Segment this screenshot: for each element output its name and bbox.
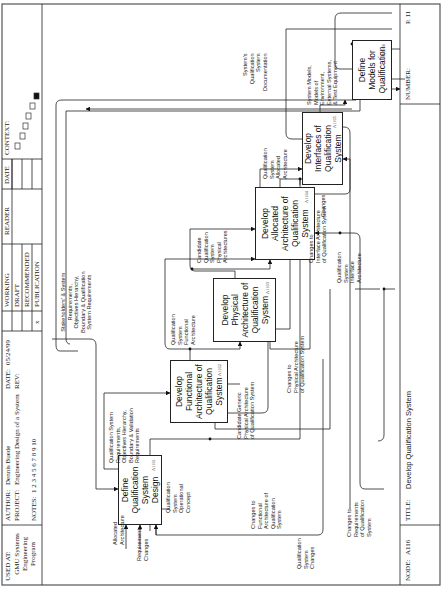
box-id: A1161 <box>149 459 159 471</box>
date-label: DATE: <box>4 369 13 389</box>
status-working[interactable]: WORKING <box>3 273 12 307</box>
node-value: A116 <box>404 540 413 555</box>
label-qual-system-changes: Qualification System Changes <box>296 538 316 569</box>
project-value: Engineering Design of a System <box>13 394 22 485</box>
label-candidate-generic-physical: Candidate Generic Physical Architecture … <box>236 382 256 439</box>
box-label: Define Qualification System Design <box>120 467 160 514</box>
label-stakeholders-requirements: Stakeholders' & System Requirements, Obj… <box>60 271 93 333</box>
label-qual-operational-concept: Qualification System Operational Concept <box>165 482 191 513</box>
footer-title: Develop Qualification System <box>404 391 413 489</box>
used-at-value: GMU Systems Engineering Program <box>13 527 37 581</box>
idef0-diagram-page: USED AT: GMU Systems Engineering Program… <box>0 0 442 589</box>
status-publication[interactable]: PUBLICATION <box>33 261 42 307</box>
label-system-qualification-documentation: System's Qualification System Documentat… <box>242 53 268 91</box>
status-draft[interactable]: DRAFT <box>13 284 22 307</box>
label-candidate-physical-architectures: Candidate Qualification System Physical … <box>196 230 229 263</box>
activity-box-develop-physical-architecture[interactable]: Develop Physical Architecture of Qualifi… <box>213 278 276 342</box>
label-changes-functional-architecture: Changes to Functional Architecture of Qu… <box>250 493 283 529</box>
label-changes-physical-architecture: Changes to Physical Architecture of Qual… <box>286 336 306 393</box>
page-number: P. 11 <box>404 11 413 24</box>
title-label: TITLE: <box>404 500 413 521</box>
activity-box-develop-allocated-architecture[interactable]: Develop Allocated Architecture of Qualif… <box>255 187 315 260</box>
label-requirement-changes: Requirement Changes <box>136 529 149 561</box>
notes-value: 1 2 3 4 5 6 7 8 9 10 <box>30 439 39 493</box>
node-label: NODE: <box>404 560 413 581</box>
label-changes: Changes <box>320 195 327 217</box>
label-qual-interface-architecture: Qualification System Interface Architect… <box>336 252 362 283</box>
activity-box-develop-interfaces[interactable]: Develop Interfaces of Qualification Syst… <box>302 112 343 185</box>
publication-check-mark[interactable]: x <box>33 321 42 325</box>
box-id: A1163 <box>263 282 273 294</box>
date2-label: DATE <box>3 166 12 184</box>
activity-box-develop-functional-architecture[interactable]: Develop Functional Architecture of Quali… <box>170 360 228 423</box>
box-label: Develop Interfaces of Qualification Syst… <box>303 125 343 172</box>
notes-label: NOTES: <box>30 497 39 522</box>
author-value: Dennis Buede <box>4 446 13 485</box>
box-id: A1166 <box>379 44 389 56</box>
label-changes-requirements: Changes to Requirements of Qualification… <box>346 500 372 537</box>
rev-label: REV: <box>13 374 22 389</box>
number-label: NUMBER: <box>404 68 413 100</box>
label-allocated-architecture: Allocated Architecture <box>112 515 125 545</box>
reader-label: READER <box>3 207 12 235</box>
box-id: A1162 <box>215 364 225 376</box>
status-recommended[interactable]: RECOMMENDED <box>23 252 32 307</box>
box-id: A1165 <box>330 116 340 128</box>
date-value: 05/24/99 <box>4 340 13 365</box>
label-qual-system-requirements: Qualification System Requirements, Objec… <box>108 408 141 463</box>
context-label: CONTEXT: <box>3 121 12 155</box>
used-at-label: USED AT: <box>4 551 13 581</box>
box-id: A1164 <box>302 191 312 203</box>
author-label: AUTHOR: <box>4 490 13 521</box>
box-label: Develop Physical Architecture of Qualifi… <box>220 283 270 338</box>
label-system-models: System Models, Models of Environment, Ex… <box>306 60 339 105</box>
label-qual-functional-architecture: Qualification System Functional Architec… <box>170 314 196 345</box>
box-label: Develop Allocated Architecture of Qualif… <box>260 196 310 251</box>
label-qual-allocated-architecture: Qualification System Allocated Architect… <box>262 148 288 179</box>
project-label: PROJECT: <box>13 490 22 521</box>
activity-box-define-models[interactable]: Define Models for Qualification A1166 <box>352 40 392 100</box>
context-node-icon <box>13 81 41 151</box>
